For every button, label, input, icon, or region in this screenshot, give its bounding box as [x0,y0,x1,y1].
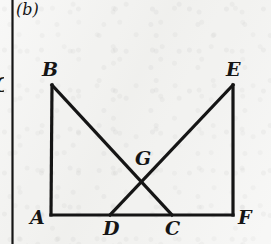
figure-page: C (b) A B C D E F G [0,0,271,244]
point-label-e: E [226,60,240,79]
point-label-c: C [165,219,180,238]
point-label-d: D [103,219,119,238]
cut-off-left-letter: C [0,75,4,95]
segment-B-C [52,85,172,215]
segment-A-B [51,85,52,215]
point-label-b: B [42,60,58,79]
point-label-g: G [135,149,151,168]
point-label-a: A [30,208,45,227]
point-label-f: F [238,208,252,227]
segment-E-D [110,85,233,215]
figure-caption-label: (b) [16,2,39,18]
